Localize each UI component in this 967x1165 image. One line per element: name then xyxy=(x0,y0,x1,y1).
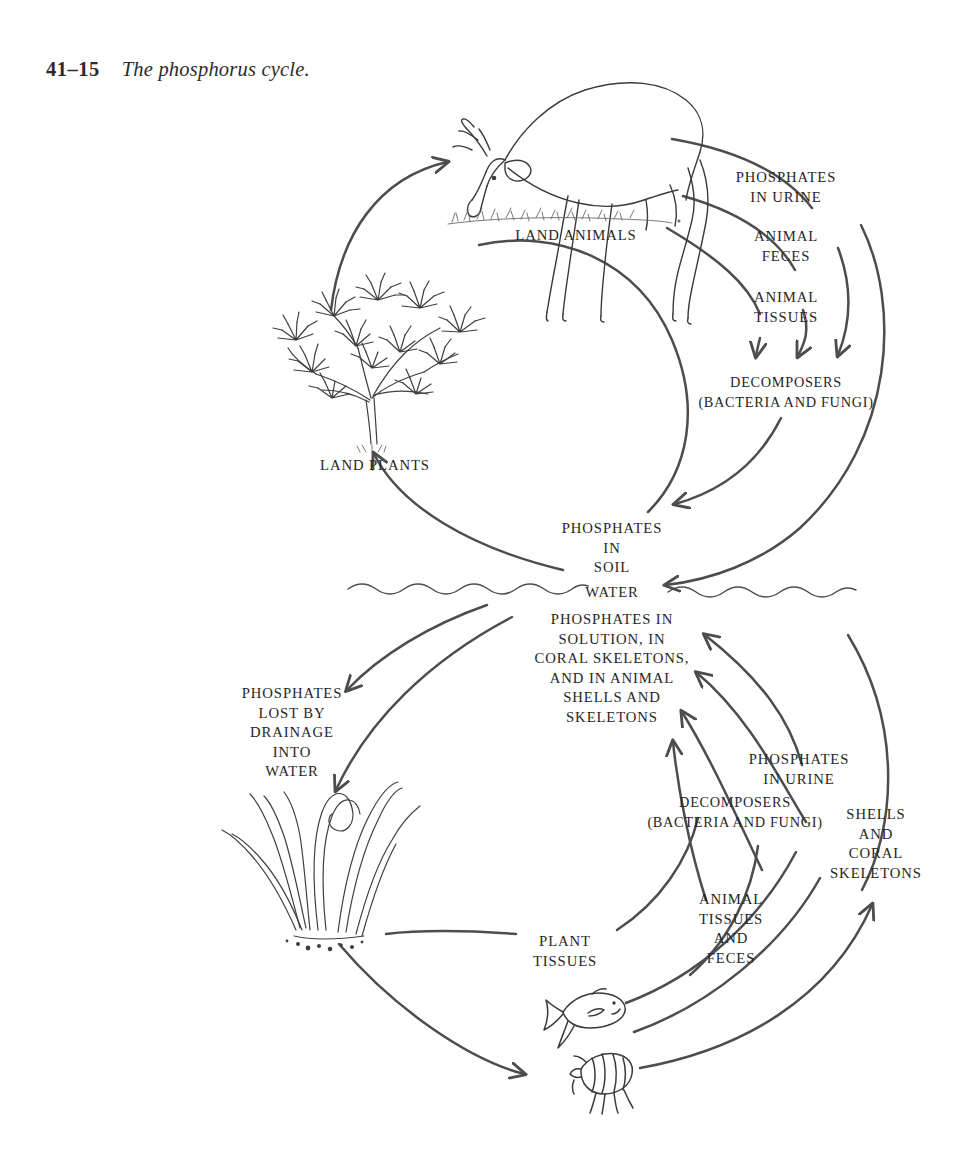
arrow-solution-to-aquatic-plants xyxy=(336,617,512,790)
cycle-arrows-aquatic xyxy=(336,605,888,1074)
aquatic-plants-illustration xyxy=(222,782,420,951)
phosphorus-cycle-figure: 41–15The phosphorus cycle. xyxy=(0,0,967,1165)
arrow-fish-to-urine xyxy=(626,852,796,1003)
arrow-fish-to-shells-line xyxy=(634,878,820,1032)
arrow-plants-to-animals xyxy=(331,162,447,310)
arrow-plant-tissues-line xyxy=(386,931,516,934)
water-surface-wavy-line xyxy=(348,584,856,597)
arrow-animals-to-feces xyxy=(683,196,795,270)
arrow-plants-to-animals-aquatic xyxy=(339,944,524,1074)
deer-grazing-illustration xyxy=(453,83,708,324)
arrow-urine-to-solution xyxy=(705,635,802,765)
crustacean-illustration xyxy=(570,1054,633,1114)
arrow-animal-tissues-to-decomposers xyxy=(690,846,758,975)
arrow-solution-to-drainage xyxy=(347,605,487,690)
arrow-decomposers-to-soil xyxy=(675,418,781,504)
arrow-shells-to-solution xyxy=(682,712,762,870)
arrow-outer-right-to-soil xyxy=(666,225,884,585)
arrow-decomposers-to-solution xyxy=(697,673,806,822)
shrub-illustration xyxy=(273,273,485,453)
arrow-outer-right-aquatic xyxy=(848,635,888,890)
arrow-urine-to-decomposers xyxy=(838,248,849,355)
fish-illustration xyxy=(544,989,625,1048)
arrow-feces-to-decomposers xyxy=(798,310,806,356)
arrow-soil-to-plants xyxy=(374,454,563,570)
arrow-inner-loop-animals xyxy=(479,241,688,512)
arrow-animals-to-tissues xyxy=(667,228,760,314)
cycle-artwork xyxy=(0,0,967,1165)
arrow-tissues-to-decomposers xyxy=(756,338,760,356)
arrow-bottom-to-shells xyxy=(640,905,872,1068)
arrow-plant-tissues-to-decomposers xyxy=(617,818,698,930)
arrow-tissues-to-solution xyxy=(673,742,706,900)
